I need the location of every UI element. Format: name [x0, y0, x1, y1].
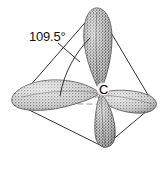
orbital-diagram-canvas: 109.5° C — [0, 0, 167, 169]
orbital-diagram-figure: 109.5° C — [0, 0, 167, 169]
bond-angle-label: 109.5° — [29, 29, 66, 44]
central-atom-label: C — [99, 82, 108, 97]
